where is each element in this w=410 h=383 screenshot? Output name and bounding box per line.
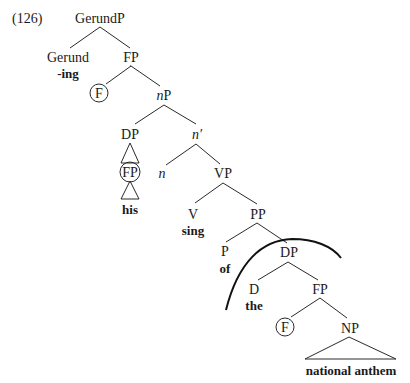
node-nbar: n′: [192, 127, 203, 142]
edge-np-nbar: [164, 105, 196, 124]
lexeme-national-anthem: national anthem: [306, 363, 397, 378]
node-fp-his: FP: [122, 165, 138, 180]
node-n: n: [159, 166, 166, 181]
edge-nbar-vp: [196, 144, 220, 164]
edge-fp-f: [291, 298, 320, 317]
node-fp: FP: [123, 50, 139, 65]
node-d: D: [249, 282, 259, 297]
lexeme-sing: sing: [182, 223, 205, 238]
edge-np-dp: [135, 105, 164, 124]
edge-vp-pp: [223, 183, 257, 204]
edge-fp-f: [106, 66, 131, 84]
syntax-tree-diagram: (126) GerundP Gerund -ing FP F nP DP FP …: [0, 0, 410, 383]
node-vp: VP: [214, 166, 232, 181]
lexeme-ing: -ing: [57, 66, 79, 81]
node-p: P: [221, 244, 229, 259]
edge-fp-np: [131, 66, 160, 86]
triangle-icon: [305, 337, 396, 359]
edge-vp-v: [195, 183, 223, 203]
phrase-p: P: [164, 88, 172, 103]
node-np: NP: [341, 321, 359, 336]
node-fp2: FP: [312, 282, 328, 297]
example-number: (126): [12, 11, 43, 27]
node-gerundp: GerundP: [75, 11, 125, 26]
edge-dp-fp: [288, 262, 318, 280]
lexeme-his: his: [122, 202, 138, 217]
node-f2: F: [281, 320, 289, 335]
node-pp: PP: [250, 207, 266, 222]
triangle-icon: [121, 143, 139, 163]
node-f: F: [95, 86, 103, 101]
edge-gerundp-gerund: [70, 27, 100, 48]
triangle-icon: [121, 181, 139, 199]
lexeme-of: of: [220, 261, 232, 276]
node-dp2: DP: [280, 245, 298, 260]
edge-fp-np: [320, 298, 347, 318]
node-v: V: [188, 207, 198, 222]
edge-dp-d: [258, 262, 288, 280]
node-dp: DP: [121, 127, 139, 142]
little-n: n: [157, 88, 164, 103]
node-little-np: nP: [157, 88, 172, 103]
node-gerund: Gerund: [47, 50, 89, 65]
edge-gerundp-fp: [100, 27, 130, 48]
edge-pp-p: [226, 223, 257, 242]
edge-nbar-n: [166, 144, 196, 165]
lexeme-the: the: [245, 298, 263, 313]
